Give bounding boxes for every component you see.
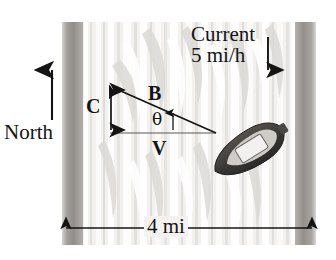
current-label: Current 5 mi/h (191, 24, 255, 67)
vector-label-B: B (148, 83, 161, 103)
north-label: North (4, 122, 53, 143)
current-label-line1: Current (191, 22, 255, 46)
vector-label-C: C (86, 96, 100, 116)
current-label-line2: 5 mi/h (191, 45, 255, 66)
left-riverbank (62, 22, 83, 245)
right-riverbank (295, 22, 316, 245)
river-width-label: 4 mi (144, 216, 188, 237)
theta-angle-label: θ (152, 111, 162, 128)
vector-label-V: V (152, 138, 166, 158)
river-crossing-diagram: Current 5 mi/h North B C V θ 4 mi (0, 0, 336, 260)
river-scene (62, 22, 316, 245)
